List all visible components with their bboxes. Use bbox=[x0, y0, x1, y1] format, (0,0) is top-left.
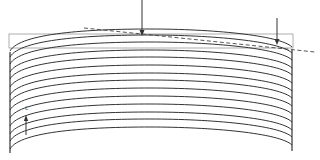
load-arrow-center bbox=[140, 0, 145, 36]
layer-line bbox=[10, 88, 292, 110]
layer-line bbox=[10, 127, 292, 149]
layer-line bbox=[10, 42, 292, 64]
c-axis-arrow bbox=[24, 115, 28, 135]
c-axis-label: c bbox=[25, 104, 29, 112]
layer-line bbox=[10, 57, 292, 79]
layer-line bbox=[10, 80, 292, 102]
layer-line bbox=[10, 35, 292, 57]
arrow-head-icon bbox=[275, 39, 280, 45]
layer-line bbox=[10, 96, 292, 118]
layer-lines bbox=[10, 29, 292, 149]
layer-line bbox=[10, 73, 292, 95]
layer-line bbox=[10, 104, 292, 126]
layered-surface-diagram bbox=[0, 0, 320, 160]
layer-line bbox=[10, 119, 292, 141]
layer-line bbox=[10, 50, 292, 72]
dashed-tangent-line bbox=[84, 28, 315, 52]
layer-line bbox=[10, 112, 292, 134]
layer-line bbox=[10, 65, 292, 87]
